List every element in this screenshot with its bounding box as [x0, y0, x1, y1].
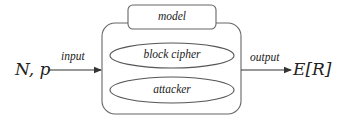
model-block-diagram: N, p input model block cipher attacker o…: [0, 0, 342, 121]
input-arrow-label: input: [61, 51, 85, 63]
output-arrow-label: output: [250, 52, 279, 64]
model-title-label: model: [128, 11, 216, 23]
attacker-label: attacker: [110, 84, 234, 96]
input-variables-label: N, p: [15, 61, 50, 78]
block-cipher-label: block cipher: [110, 49, 234, 61]
expected-result-label: E[R]: [293, 61, 331, 78]
